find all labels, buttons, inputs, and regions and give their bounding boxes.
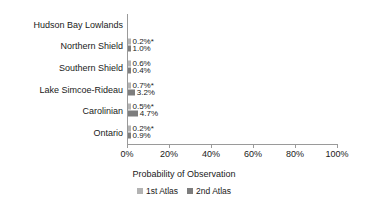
bar-value-label: 0.9% xyxy=(133,132,151,140)
bar-group: 0.2%*1.0% xyxy=(128,39,338,54)
x-tick-label: 100% xyxy=(325,149,348,159)
plot-area: Hudson Bay LowlandsNorthern Shield0.2%*1… xyxy=(127,14,337,144)
x-tick-mark xyxy=(337,144,338,148)
bar-value-label: 3.2% xyxy=(137,88,155,96)
category-label: Ontario xyxy=(93,128,123,138)
bar-second-atlas xyxy=(128,89,135,95)
chart-legend: 1st Atlas2nd Atlas xyxy=(0,186,368,196)
chart-row: Hudson Bay Lowlands xyxy=(127,14,337,36)
x-tick-mark xyxy=(169,144,170,148)
bar-second-atlas xyxy=(128,68,131,74)
category-label: Northern Shield xyxy=(60,41,123,51)
probability-of-observation-chart: Hudson Bay LowlandsNorthern Shield0.2%*1… xyxy=(0,0,368,205)
bar-value-label: 1.0% xyxy=(133,45,151,53)
legend-label: 2nd Atlas xyxy=(196,186,231,196)
chart-row: Southern Shield0.6%0.4% xyxy=(127,57,337,79)
bar-group: 0.2%*0.9% xyxy=(128,126,338,141)
bar-first-atlas xyxy=(128,126,131,132)
chart-row: Ontario0.2%*0.9% xyxy=(127,122,337,144)
bar-group: 0.7%*3.2% xyxy=(128,82,338,97)
x-tick-mark xyxy=(127,144,128,148)
legend-label: 1st Atlas xyxy=(146,186,178,196)
chart-row: Northern Shield0.2%*1.0% xyxy=(127,36,337,58)
category-label: Lake Simcoe-Rideau xyxy=(39,85,123,95)
bar-first-atlas xyxy=(128,61,131,67)
bar-group xyxy=(128,17,338,32)
x-axis-line xyxy=(127,144,338,145)
x-tick-mark xyxy=(295,144,296,148)
bar-second-atlas xyxy=(128,111,138,117)
bar-first-atlas xyxy=(128,104,131,110)
category-label: Hudson Bay Lowlands xyxy=(33,20,123,30)
legend-swatch-icon xyxy=(187,188,193,194)
category-label: Carolinian xyxy=(82,106,123,116)
bar-group: 0.5%*4.7% xyxy=(128,104,338,119)
legend-item: 2nd Atlas xyxy=(187,186,231,196)
bar-second-atlas xyxy=(128,46,131,52)
x-tick-label: 20% xyxy=(160,149,178,159)
bar-value-label: 0.4% xyxy=(133,67,151,75)
bar-first-atlas xyxy=(128,39,131,45)
chart-row: Carolinian0.5%*4.7% xyxy=(127,101,337,123)
legend-swatch-icon xyxy=(137,188,143,194)
x-tick-label: 0% xyxy=(120,149,133,159)
bar-second-atlas xyxy=(128,133,131,139)
bar-value-label: 4.7% xyxy=(140,110,158,118)
legend-item: 1st Atlas xyxy=(137,186,178,196)
bar-group: 0.6%0.4% xyxy=(128,61,338,76)
category-label: Southern Shield xyxy=(59,63,123,73)
x-tick-mark xyxy=(211,144,212,148)
chart-row: Lake Simcoe-Rideau0.7%*3.2% xyxy=(127,79,337,101)
bar-first-atlas xyxy=(128,82,131,88)
x-tick-label: 80% xyxy=(286,149,304,159)
x-axis-title: Probability of Observation xyxy=(0,169,368,180)
x-tick-label: 40% xyxy=(202,149,220,159)
x-tick-mark xyxy=(253,144,254,148)
x-tick-label: 60% xyxy=(244,149,262,159)
